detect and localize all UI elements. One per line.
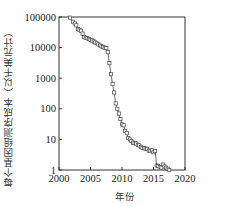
y-tick-label: 1000	[35, 73, 56, 84]
data-point-marker	[105, 47, 108, 50]
cost-series-line	[70, 18, 169, 170]
data-point-marker	[81, 32, 84, 35]
data-point-marker	[154, 149, 157, 152]
cost-series-markers	[68, 16, 170, 172]
data-point-marker	[168, 168, 171, 171]
y-tick-label: 100	[40, 103, 56, 114]
y-tick-label: 100000	[25, 12, 57, 23]
data-point-marker	[68, 16, 71, 19]
y-tick-label: 10000	[30, 42, 56, 53]
x-tick-label: 2020	[175, 173, 196, 184]
data-point-marker	[113, 91, 116, 94]
x-axis-title: 年份	[100, 189, 150, 203]
data-point-marker	[109, 73, 112, 76]
y-tick-label: 10	[46, 134, 57, 145]
y-axis-ticks: 110100100010000100000	[25, 12, 63, 176]
data-point-marker	[125, 132, 128, 135]
data-point-marker	[114, 102, 117, 105]
data-point-marker	[75, 24, 78, 27]
data-point-marker	[117, 112, 120, 115]
x-tick-label: 2005	[80, 173, 101, 184]
data-point-marker	[116, 107, 119, 110]
data-point-marker	[122, 124, 125, 127]
data-point-marker	[106, 51, 109, 54]
data-point-marker	[108, 62, 111, 65]
plot-frame	[59, 17, 185, 170]
data-point-marker	[111, 82, 114, 85]
data-point-marker	[119, 118, 122, 121]
y-axis-title: 每个基因组测序成本（以千美元计）	[2, 22, 16, 192]
x-tick-label: 2010	[112, 173, 133, 184]
x-tick-label: 2015	[143, 173, 164, 184]
x-tick-label: 2000	[49, 173, 70, 184]
chart-canvas: 110100100010000100000 200020052010201520…	[0, 0, 250, 207]
